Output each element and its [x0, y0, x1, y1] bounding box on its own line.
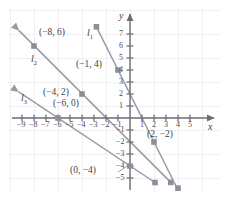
- x-tick-label--4: −4: [77, 121, 86, 129]
- point-marker-2-neg2: [151, 139, 157, 145]
- x-tick-label-2: 2: [152, 121, 156, 129]
- point-label-0-neg4: (0, −4): [70, 166, 96, 176]
- point-marker-0-neg4: [127, 163, 133, 169]
- x-tick-label--7: −7: [41, 121, 50, 129]
- y-tick-label--3: −3: [116, 150, 125, 158]
- x-axis-label: x: [208, 122, 212, 132]
- line-label-l2-sub: 2: [34, 59, 37, 66]
- coordinate-plane-figure: −9 −8 −7 −6 −5 −4 −3 −2 −1 1 2 3 4 5 7 6…: [0, 0, 228, 199]
- point-label-neg1-4: (−1, 4): [76, 60, 102, 70]
- line-label-l3-sub: 3: [24, 98, 27, 105]
- x-tick-label--3: −3: [89, 121, 98, 129]
- y-tick-label-7: 7: [119, 30, 123, 38]
- y-tick-label--4: −4: [116, 162, 125, 170]
- y-axis-label: y: [119, 11, 123, 21]
- x-tick-label--8: −8: [29, 121, 38, 129]
- y-tick-label-6: 6: [119, 42, 123, 50]
- y-tick-label--5: −5: [116, 174, 125, 182]
- x-tick-label--2: −2: [101, 121, 110, 129]
- y-tick-label-2: 2: [119, 90, 123, 98]
- point-label-neg6-0: (−6, 0): [53, 99, 79, 109]
- y-tick-label-5: 5: [119, 54, 123, 62]
- point-label-neg4-2: (−4, 2): [43, 88, 69, 98]
- point-marker-neg4-2: [79, 91, 85, 97]
- y-tick-label--1: −1: [116, 126, 125, 134]
- x-tick-label--6: −6: [53, 121, 62, 129]
- point-label-2-neg2: (2, −2): [147, 130, 173, 140]
- graph-canvas: [0, 0, 228, 199]
- x-tick-label-4: 4: [176, 121, 180, 129]
- x-tick-label--9: −9: [17, 121, 26, 129]
- x-tick-label--5: −5: [65, 121, 74, 129]
- y-tick-label-3: 3: [119, 78, 123, 86]
- x-tick-label-1: 1: [140, 121, 144, 129]
- point-marker-neg8-6: [31, 43, 37, 49]
- y-tick-label--2: −2: [116, 138, 125, 146]
- y-tick-label-1: 1: [119, 102, 123, 110]
- y-tick-label-4: 4: [119, 66, 123, 74]
- x-tick-label-5: 5: [188, 121, 192, 129]
- line-label-l1-sub: 1: [90, 33, 93, 40]
- line-label-l1: l1: [87, 28, 93, 41]
- line-label-l3: l3: [21, 93, 27, 106]
- line-label-l2: l2: [31, 54, 37, 67]
- point-label-neg8-6: (−8, 6): [39, 28, 65, 38]
- x-tick-label-3: 3: [164, 121, 168, 129]
